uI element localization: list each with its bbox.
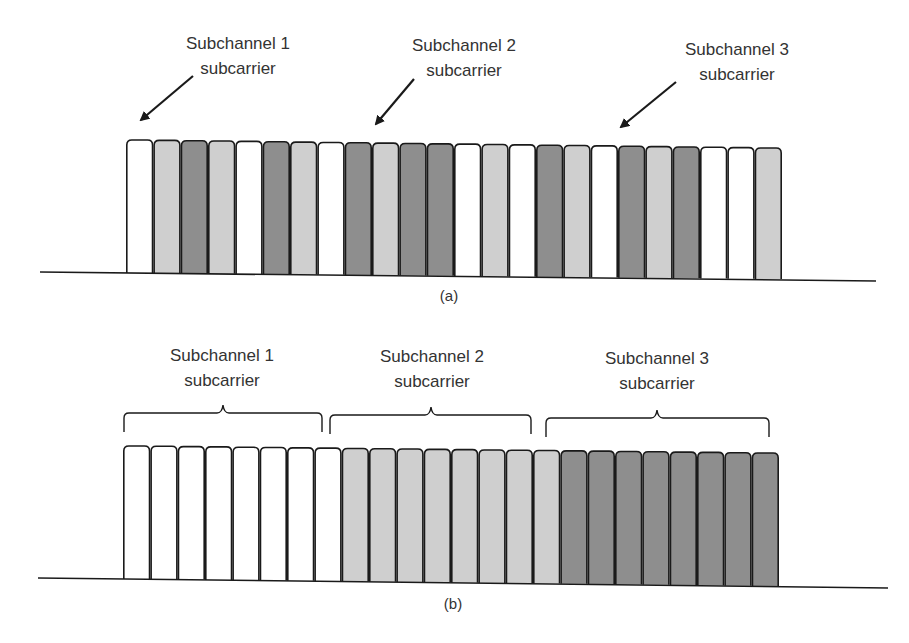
panel-a-subcarrier-bar <box>318 142 344 274</box>
panel-b-subcarrier-bar <box>124 446 150 579</box>
panel-b-subcarrier-bar <box>588 451 614 584</box>
panel-a-label-3-line2: subcarrier <box>699 65 775 84</box>
panel-a-subcarrier-bar <box>619 146 645 277</box>
panel-b-subcarrier-bar <box>397 449 423 582</box>
panel-b-label-1-line2: subcarrier <box>184 371 260 390</box>
panel-b-subcarrier-bars <box>124 446 778 586</box>
panel-a-subcarrier-bar <box>127 140 153 273</box>
panel-b-subcarrier-bar <box>206 447 232 580</box>
panel-b-brace-2-icon <box>330 407 531 434</box>
panel-a-subcarrier-bar <box>263 142 289 275</box>
panel-a-subcarrier-bar <box>591 146 617 278</box>
panel-b-subcarrier-bar <box>370 449 396 582</box>
panel-b: Subchannel 1 subcarrier Subchannel 2 sub… <box>38 346 888 612</box>
panel-a-subcarrier-bar <box>482 145 508 277</box>
panel-a-label-1-line1: Subchannel 1 <box>186 34 290 53</box>
panel-b-subcarrier-bar <box>698 452 724 585</box>
panel-b-subcarrier-bar <box>752 453 778 586</box>
panel-a-subcarrier-bar <box>345 143 371 275</box>
panel-b-subcarrier-bar <box>643 452 669 585</box>
panel-b-subcarrier-bar <box>151 446 177 579</box>
panel-a-subcarrier-bar <box>154 140 180 273</box>
panel-b-label-2-line2: subcarrier <box>394 372 470 391</box>
panel-a-label-3-line1: Subchannel 3 <box>685 40 789 59</box>
panel-b-label-3-line1: Subchannel 3 <box>605 349 709 368</box>
panel-b-subcarrier-bar <box>288 448 314 581</box>
panel-b-subcarrier-bar <box>342 448 368 581</box>
panel-a-caption: (a) <box>440 287 458 304</box>
panel-b-brace-3-icon <box>546 410 769 437</box>
subchannel-diagram: Subchannel 1 subcarrier Subchannel 2 sub… <box>0 0 909 643</box>
panel-b-label-3-line2: subcarrier <box>619 374 695 393</box>
panel-a-subcarrier-bar <box>400 143 426 275</box>
panel-a-subcarrier-bar <box>755 148 781 279</box>
panel-b-label-2-line1: Subchannel 2 <box>380 347 484 366</box>
panel-a-subcarrier-bar <box>455 144 481 276</box>
panel-a-subcarrier-bars <box>127 140 781 279</box>
panel-b-subcarrier-bar <box>260 448 286 581</box>
panel-a-label-2-line2: subcarrier <box>426 61 502 80</box>
panel-b-subcarrier-bar <box>534 451 560 584</box>
panel-b-subcarrier-bar <box>506 450 532 583</box>
panel-a-subcarrier-bar <box>646 147 672 278</box>
panel-a-arrow-2-icon <box>376 79 414 124</box>
panel-a-arrow-1-icon <box>141 76 193 120</box>
panel-b-subcarrier-bar <box>178 447 204 580</box>
panel-a: Subchannel 1 subcarrier Subchannel 2 sub… <box>40 34 876 304</box>
panel-a-arrow-3-icon <box>621 82 676 127</box>
panel-b-subcarrier-bar <box>233 447 259 580</box>
panel-b-brace-1-icon <box>124 405 322 432</box>
panel-a-subcarrier-bar <box>236 141 262 274</box>
panel-a-label-2-line1: Subchannel 2 <box>412 36 516 55</box>
panel-b-subcarrier-bar <box>670 452 696 585</box>
panel-a-subcarrier-bar <box>509 145 535 277</box>
panel-b-label-1-line1: Subchannel 1 <box>170 346 274 365</box>
panel-b-subcarrier-bar <box>452 450 478 583</box>
panel-b-subcarrier-bar <box>725 453 751 586</box>
panel-b-subcarrier-bar <box>616 451 642 584</box>
panel-a-subcarrier-bar <box>564 146 590 278</box>
panel-b-caption: (b) <box>444 595 462 612</box>
panel-a-subcarrier-bar <box>291 142 317 274</box>
panel-a-label-1-line2: subcarrier <box>200 59 276 78</box>
panel-b-subcarrier-bar <box>561 451 587 584</box>
panel-a-subcarrier-bar <box>728 148 754 279</box>
panel-a-subcarrier-bar <box>701 147 727 278</box>
panel-a-subcarrier-bar <box>209 141 235 274</box>
panel-a-subcarrier-bar <box>537 145 563 277</box>
panel-a-subcarrier-bar <box>181 141 207 274</box>
panel-a-subcarrier-bar <box>373 143 399 275</box>
panel-a-subcarrier-bar <box>427 144 453 276</box>
panel-a-subcarrier-bar <box>673 147 699 278</box>
panel-b-subcarrier-bar <box>424 449 450 582</box>
panel-b-subcarrier-bar <box>315 448 341 581</box>
panel-b-subcarrier-bar <box>479 450 505 583</box>
